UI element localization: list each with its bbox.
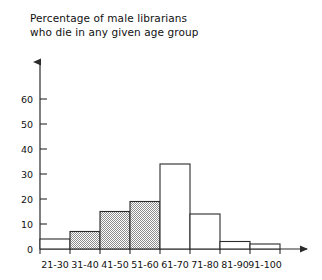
x-tick-label: 81-90	[221, 259, 249, 270]
histogram-bar	[220, 242, 250, 250]
chart-container: Percentage of male librarians who die in…	[0, 0, 322, 280]
y-tick-label: 60	[21, 94, 33, 105]
x-tick-label: 31-40	[71, 259, 99, 270]
x-tick-labels-group: 21-3031-4041-5051-6061-7071-8081-9091-10…	[41, 259, 282, 270]
histogram-bar	[130, 202, 160, 250]
y-tick-label: 50	[21, 119, 33, 130]
x-axis-ticks	[40, 249, 280, 254]
x-tick-label: 91-100	[248, 259, 282, 270]
y-axis-ticks	[40, 99, 47, 224]
y-tick-label: 0	[27, 244, 33, 255]
y-axis	[40, 62, 47, 249]
y-tick-label: 10	[21, 219, 33, 230]
y-tick-label: 40	[21, 144, 33, 155]
x-tick-label: 61-70	[161, 259, 189, 270]
y-tick-label: 30	[21, 169, 33, 180]
y-tick-labels-group: 0102030405060	[21, 94, 33, 255]
histogram-bar	[190, 214, 220, 249]
bars-group	[40, 164, 280, 249]
x-tick-label: 71-80	[191, 259, 219, 270]
y-tick-label: 20	[21, 194, 33, 205]
histogram-bar	[250, 244, 280, 249]
histogram-bar	[40, 239, 70, 249]
x-axis	[40, 249, 307, 254]
histogram-bar	[160, 164, 190, 249]
x-tick-label: 21-30	[41, 259, 69, 270]
histogram-plot: 0102030405060 21-3031-4041-5051-6061-707…	[0, 0, 322, 280]
histogram-bar	[70, 232, 100, 250]
x-tick-label: 51-60	[131, 259, 159, 270]
x-tick-label: 41-50	[101, 259, 129, 270]
histogram-bar	[100, 212, 130, 250]
